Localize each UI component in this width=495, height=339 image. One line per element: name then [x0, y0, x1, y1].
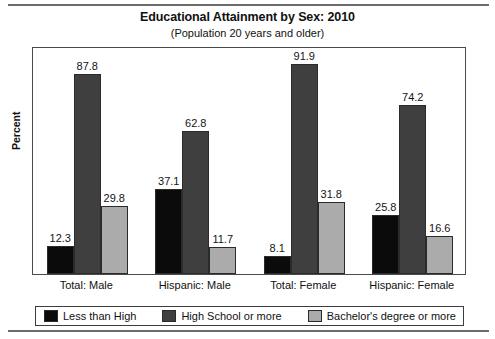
category-label: Total: Male — [32, 278, 141, 292]
bar-fill — [74, 74, 101, 274]
page-subtitle: (Population 20 years and older) — [0, 26, 495, 40]
legend-swatch-icon — [308, 310, 322, 322]
bar-value-label: 29.8 — [104, 192, 125, 204]
category-label: Total: Female — [249, 278, 358, 292]
legend-item[interactable]: Less than High — [44, 310, 136, 323]
bar[interactable]: 8.1 — [264, 256, 291, 274]
bottom-divider-rule — [8, 330, 489, 332]
bar[interactable]: 31.8 — [318, 202, 345, 275]
bar[interactable]: 74.2 — [399, 105, 426, 274]
legend-label: Bachelor's degree or more — [327, 310, 456, 323]
bar-value-label: 16.6 — [429, 222, 450, 234]
bar-fill — [47, 246, 74, 274]
bar[interactable]: 16.6 — [426, 236, 453, 274]
bar-value-label: 62.8 — [185, 117, 206, 129]
category-label: Hispanic: Male — [141, 278, 250, 292]
bar-fill — [399, 105, 426, 274]
bar[interactable]: 37.1 — [155, 189, 182, 274]
legend-swatch-icon — [44, 310, 58, 322]
bar-fill — [318, 202, 345, 275]
bar-value-label: 37.1 — [158, 175, 179, 187]
bar[interactable]: 91.9 — [291, 64, 318, 274]
bar-fill — [372, 215, 399, 274]
top-divider-rule — [8, 4, 489, 6]
bar-fill — [209, 247, 236, 274]
y-axis-title: Percent — [10, 128, 22, 150]
bar-fill — [426, 236, 453, 274]
bar-value-label: 11.7 — [212, 233, 233, 245]
bar-value-label: 12.3 — [50, 232, 71, 244]
title-block: Educational Attainment by Sex: 2010 (Pop… — [0, 10, 495, 40]
legend-label: High School or more — [181, 310, 281, 323]
bar-value-label: 91.9 — [294, 50, 315, 62]
bar-value-label: 8.1 — [270, 242, 285, 254]
bar[interactable]: 29.8 — [101, 206, 128, 274]
bar-group: 25.874.216.6 — [359, 48, 468, 274]
bar-fill — [101, 206, 128, 274]
bar-group: 8.191.931.8 — [250, 48, 359, 274]
bar[interactable]: 87.8 — [74, 74, 101, 274]
bar[interactable]: 25.8 — [372, 215, 399, 274]
bar[interactable]: 11.7 — [209, 247, 236, 274]
legend-swatch-icon — [162, 310, 176, 322]
category-label: Hispanic: Female — [358, 278, 467, 292]
legend-item[interactable]: High School or more — [162, 310, 281, 323]
category-axis-labels: Total: MaleHispanic: MaleTotal: FemaleHi… — [32, 278, 466, 294]
bar-fill — [155, 189, 182, 274]
chart-legend: Less than HighHigh School or moreBachelo… — [35, 306, 464, 326]
bar-fill — [182, 131, 209, 274]
bar[interactable]: 62.8 — [182, 131, 209, 274]
bars-container: 12.387.829.837.162.811.78.191.931.825.87… — [33, 48, 465, 274]
plot-area: 12.387.829.837.162.811.78.191.931.825.87… — [32, 47, 466, 275]
bar[interactable]: 12.3 — [47, 246, 74, 274]
bar-value-label: 31.8 — [321, 188, 342, 200]
legend-item[interactable]: Bachelor's degree or more — [308, 310, 456, 323]
bar-value-label: 74.2 — [402, 91, 423, 103]
bar-value-label: 25.8 — [375, 201, 396, 213]
legend-label: Less than High — [63, 310, 136, 323]
bar-group: 37.162.811.7 — [142, 48, 251, 274]
bar-value-label: 87.8 — [77, 60, 98, 72]
bar-fill — [264, 256, 291, 274]
bar-group: 12.387.829.8 — [33, 48, 142, 274]
bar-fill — [291, 64, 318, 274]
page-title: Educational Attainment by Sex: 2010 — [0, 10, 495, 25]
